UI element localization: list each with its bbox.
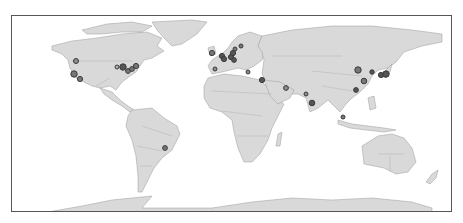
city-marker[interactable]: Hong Kong	[354, 88, 359, 93]
city-marker[interactable]: Chicago-west	[115, 65, 119, 69]
city-marker[interactable]: Athens	[246, 70, 250, 74]
city-marker[interactable]: Bangalore	[309, 100, 315, 106]
city-marker[interactable]: San Francisco	[71, 71, 77, 77]
philippines	[368, 96, 376, 110]
city-marker[interactable]: Sao Paulo	[163, 146, 168, 151]
city-marker[interactable]: Tokyo	[383, 71, 389, 77]
antarctica	[42, 196, 432, 212]
city-marker[interactable]: Madrid	[213, 67, 217, 71]
new-zealand	[426, 170, 438, 184]
city-marker[interactable]: Los Angeles	[77, 76, 82, 81]
city-marker[interactable]: Zurich	[232, 58, 237, 63]
map-frame: SeattleSan FranciscoLos AngelesChicago-w…	[11, 15, 452, 212]
indonesia	[338, 120, 396, 132]
city-marker[interactable]: Seattle	[74, 59, 79, 64]
city-marker[interactable]: Dubai	[284, 86, 289, 91]
city-marker[interactable]: Shanghai	[361, 78, 367, 84]
city-marker[interactable]: Stockholm	[239, 44, 243, 48]
city-marker[interactable]: Copenhagen	[233, 47, 237, 51]
central-america	[100, 88, 134, 112]
city-marker[interactable]: Tel Aviv	[259, 77, 264, 82]
world-map[interactable]: SeattleSan FranciscoLos AngelesChicago-w…	[12, 16, 452, 212]
city-marker[interactable]: Seoul	[370, 70, 374, 74]
city-marker[interactable]: Beijing	[355, 67, 361, 73]
greenland	[152, 20, 207, 46]
madagascar	[276, 132, 282, 146]
city-marker[interactable]: Chicago	[120, 64, 126, 70]
city-marker[interactable]: Paris	[221, 56, 226, 61]
city-marker[interactable]: Mumbai	[304, 92, 308, 96]
city-marker[interactable]: New York	[133, 63, 138, 68]
south-america	[126, 108, 180, 192]
city-marker[interactable]: London	[209, 50, 214, 55]
city-marker[interactable]: Singapore	[341, 115, 345, 119]
land-layer	[42, 20, 442, 212]
arctic-islands	[82, 22, 152, 34]
